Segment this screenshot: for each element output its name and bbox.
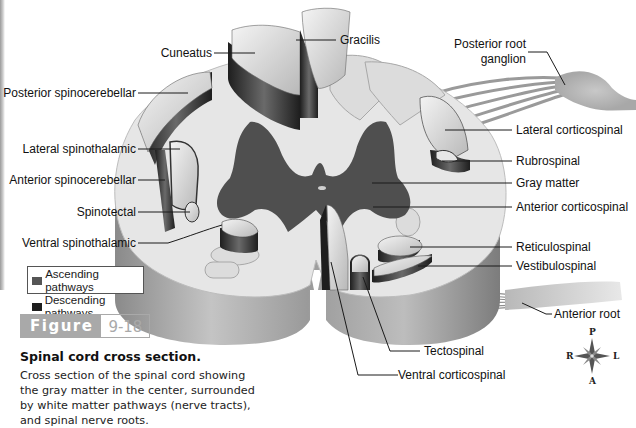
label-gray-matter: Gray matter (516, 176, 579, 190)
label-posterior-root-ganglion-line2: ganglion (420, 45, 526, 66)
anterior-root-shape (505, 282, 622, 310)
label-anterior-corticospinal: Anterior corticospinal (516, 200, 628, 214)
caption-body: Cross section of the spinal cord showing… (20, 368, 260, 428)
compass-label-anterior: A (589, 376, 596, 386)
descending-swatch (32, 303, 42, 311)
figure-tag-number: 9-18 (101, 314, 150, 338)
label-vestibulospinal: Vestibulospinal (516, 259, 596, 273)
label-rubrospinal: Rubrospinal (516, 154, 580, 168)
ascending-swatch (32, 277, 42, 285)
compass-rose-icon (574, 338, 610, 374)
legend-label-ascending: Ascending pathways (45, 268, 143, 294)
label-lateral-corticospinal: Lateral corticospinal (516, 123, 623, 137)
legend: Ascending pathways Descending pathways (27, 266, 144, 294)
label-ventral-spinothalamic: Ventral spinothalamic (0, 236, 136, 250)
figure-tag: Figure 9-18 (20, 314, 150, 338)
compass-label-left: L (613, 351, 619, 361)
lateral-spinothalamic-tract (170, 141, 198, 209)
label-cuneatus: Cuneatus (120, 46, 212, 60)
posterior-root-ganglion-shape (555, 71, 636, 110)
legend-item-ascending: Ascending pathways (32, 268, 143, 294)
label-ventral-corticospinal: Ventral corticospinal (398, 368, 505, 382)
caption-title: Spinal cord cross section. (20, 349, 201, 364)
label-lateral-spinothalamic: Lateral spinothalamic (0, 142, 136, 156)
label-tectospinal: Tectospinal (424, 344, 484, 358)
label-gracilis: Gracilis (340, 33, 380, 47)
label-anterior-spinocerebellar: Anterior spinocerebellar (0, 173, 136, 187)
label-anterior-root: Anterior root (554, 307, 620, 321)
label-spinotectal: Spinotectal (0, 205, 136, 219)
compass-label-right: R (566, 351, 573, 361)
label-posterior-spinocerebellar: Posterior spinocerebellar (0, 86, 136, 100)
tectospinal-tract (350, 255, 370, 291)
figure-tag-word: Figure (20, 314, 101, 338)
compass-label-posterior: P (589, 327, 596, 337)
ventral-spinothalamic-tract (220, 219, 258, 253)
label-reticulospinal: Reticulospinal (516, 240, 591, 254)
